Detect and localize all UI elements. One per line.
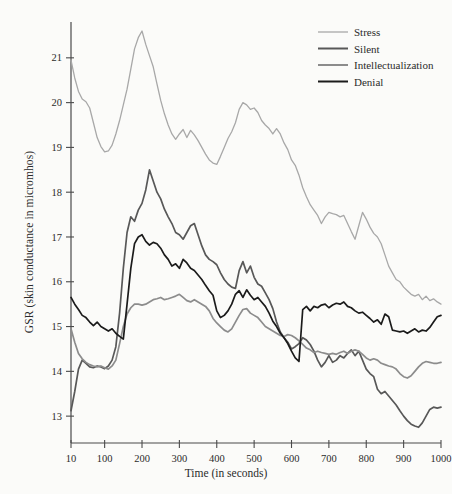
x-tick-label: 900	[396, 453, 412, 464]
x-tick-label: 500	[246, 453, 262, 464]
y-tick-label: 18	[52, 187, 63, 198]
y-tick-label: 20	[52, 97, 63, 108]
gsr-line-chart-figure: 1314151617181920211010020030040050060070…	[0, 0, 452, 494]
chart-legend[interactable]: StressSilentIntellectualizationDenial	[318, 26, 434, 88]
x-tick-label: 400	[209, 453, 225, 464]
y-tick-label: 17	[52, 232, 63, 243]
legend-label-intellectualization[interactable]: Intellectualization	[354, 59, 434, 71]
y-tick-label: 14	[52, 366, 63, 377]
x-tick-label: 700	[321, 453, 337, 464]
chart-canvas: 1314151617181920211010020030040050060070…	[0, 0, 452, 494]
y-tick-label: 19	[52, 142, 63, 153]
x-axis-title: Time (in seconds)	[0, 467, 452, 479]
legend-label-silent[interactable]: Silent	[354, 43, 380, 55]
series-line-stress	[71, 31, 441, 304]
x-tick-label: 300	[172, 453, 188, 464]
y-tick-label: 13	[52, 411, 63, 422]
x-tick-label: 10	[66, 453, 77, 464]
x-tick-label: 200	[134, 453, 150, 464]
y-tick-label: 15	[52, 321, 63, 332]
x-tick-label: 800	[358, 453, 374, 464]
series-line-denial	[71, 235, 441, 362]
y-tick-label: 16	[52, 276, 63, 287]
x-tick-label: 1000	[431, 453, 452, 464]
legend-label-denial[interactable]: Denial	[354, 76, 383, 88]
y-axis-title: GSR (skin conductance in micromhos)	[23, 127, 35, 357]
axes: 1314151617181920211010020030040050060070…	[52, 22, 452, 464]
x-tick-label: 100	[97, 453, 113, 464]
x-tick-label: 600	[284, 453, 300, 464]
legend-label-stress[interactable]: Stress	[354, 26, 380, 38]
y-tick-label: 21	[52, 52, 63, 63]
data-series	[71, 31, 441, 427]
